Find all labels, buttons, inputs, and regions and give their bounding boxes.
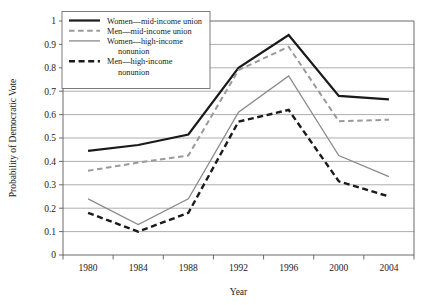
legend-label-0: Women—mid-income union bbox=[107, 17, 203, 26]
y-axis-title: Probability of Democratic Vote bbox=[8, 79, 18, 198]
y-tick-label: 0.9 bbox=[44, 40, 56, 50]
y-tick-label: 0.4 bbox=[44, 157, 56, 167]
y-axis-ticks: 00.10.20.30.40.50.60.70.80.91 bbox=[44, 16, 63, 260]
y-tick-label: 0.7 bbox=[44, 87, 56, 97]
chart-figure: 00.10.20.30.40.50.60.70.80.91 1980198419… bbox=[0, 0, 429, 305]
y-tick-label: 0.8 bbox=[44, 63, 56, 73]
x-tick-label: 1988 bbox=[179, 263, 198, 273]
x-axis-title: Year bbox=[230, 287, 248, 297]
x-tick-label: 2000 bbox=[329, 263, 348, 273]
x-axis-ticks: 1980198419881992199620002004 bbox=[63, 255, 414, 273]
legend-label-2-cont: nonunion bbox=[118, 47, 150, 56]
x-tick-label: 1980 bbox=[79, 263, 98, 273]
y-tick-label: 0.3 bbox=[44, 180, 56, 190]
x-tick-label: 1984 bbox=[129, 263, 148, 273]
legend-label-2: Women—high-income bbox=[107, 37, 183, 46]
y-tick-label: 0 bbox=[51, 250, 56, 260]
x-tick-label: 1996 bbox=[279, 263, 298, 273]
x-tick-label: 1992 bbox=[229, 263, 248, 273]
y-tick-label: 0.6 bbox=[44, 110, 56, 120]
x-tick-label: 2004 bbox=[379, 263, 398, 273]
y-tick-label: 1 bbox=[51, 16, 56, 26]
y-tick-label: 0.1 bbox=[44, 227, 56, 237]
y-tick-label: 0.5 bbox=[44, 133, 56, 143]
y-tick-label: 0.2 bbox=[44, 204, 56, 214]
line-chart: 00.10.20.30.40.50.60.70.80.91 1980198419… bbox=[0, 0, 429, 305]
chart-legend: Women—mid-income unionMen—mid-income uni… bbox=[62, 12, 210, 89]
legend-label-3: Men—high-income bbox=[107, 57, 173, 66]
legend-label-3-cont: nonunion bbox=[118, 68, 150, 77]
legend-label-1: Men—mid-income union bbox=[107, 27, 192, 36]
